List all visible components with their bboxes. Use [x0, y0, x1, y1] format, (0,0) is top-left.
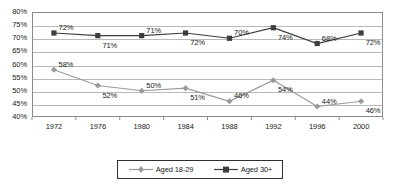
- y-axis-tick-label: 50%: [12, 87, 27, 95]
- data-point-label: 58%: [59, 59, 74, 68]
- line-chart: 40%45%50%55%60%65%70%75%80% 58%52%50%51%…: [0, 0, 395, 186]
- data-point-label: 51%: [190, 93, 205, 102]
- diamond-marker-icon: [128, 165, 154, 174]
- data-point-label: 74%: [278, 32, 293, 41]
- y-axis-tick-label: 45%: [12, 100, 27, 108]
- legend: Aged 18-29 Aged 30+: [117, 160, 283, 179]
- x-axis-tick-label: 1996: [309, 122, 325, 131]
- data-point-label: 71%: [102, 40, 117, 49]
- data-point-label: 50%: [146, 80, 161, 89]
- data-point-label: 54%: [278, 85, 293, 94]
- data-point-label: 46%: [366, 106, 381, 115]
- data-point-label: 72%: [190, 38, 205, 47]
- legend-label: Aged 18-29: [156, 165, 194, 174]
- y-axis-tick-label: 40%: [12, 113, 27, 121]
- x-axis-tick-label: 1988: [221, 122, 237, 131]
- x-axis-tick-label: 1992: [265, 122, 281, 131]
- data-point-label: 71%: [146, 25, 161, 34]
- x-axis-tick-label: 1984: [177, 122, 193, 131]
- y-axis-tick-label: 70%: [12, 34, 27, 42]
- gridline: [33, 92, 382, 93]
- x-axis-tick-label: 2000: [353, 122, 369, 131]
- gridline: [33, 105, 382, 106]
- square-marker-icon: [213, 165, 239, 174]
- x-axis-tick-label: 1980: [134, 122, 150, 131]
- y-axis-labels: 40%45%50%55%60%65%70%75%80%: [0, 0, 30, 186]
- x-axis-tick-label: 1976: [90, 122, 106, 131]
- data-point-label: 72%: [59, 23, 74, 32]
- y-axis-tick-label: 65%: [12, 47, 27, 55]
- gridline: [33, 52, 382, 53]
- y-axis-tick-label: 75%: [12, 21, 27, 29]
- data-point-label: 44%: [322, 96, 337, 105]
- data-point-label: 72%: [366, 38, 381, 47]
- x-axis-tick-label: 1972: [46, 122, 62, 131]
- data-point-label: 46%: [234, 91, 249, 100]
- y-axis-tick-label: 55%: [12, 74, 27, 82]
- legend-item-aged-18-29[interactable]: Aged 18-29: [128, 165, 194, 174]
- legend-item-aged-30-plus[interactable]: Aged 30+: [213, 165, 273, 174]
- data-point-label: 70%: [234, 28, 249, 37]
- gridline: [33, 66, 382, 67]
- data-point-label: 52%: [102, 90, 117, 99]
- data-point-label: 68%: [322, 33, 337, 42]
- gridline: [33, 26, 382, 27]
- legend-label: Aged 30+: [241, 165, 273, 174]
- x-axis-labels: 19721976198019841988199219962000: [0, 122, 395, 136]
- y-axis-tick-label: 80%: [12, 8, 27, 16]
- y-axis-tick-label: 60%: [12, 61, 27, 69]
- gridline: [33, 79, 382, 80]
